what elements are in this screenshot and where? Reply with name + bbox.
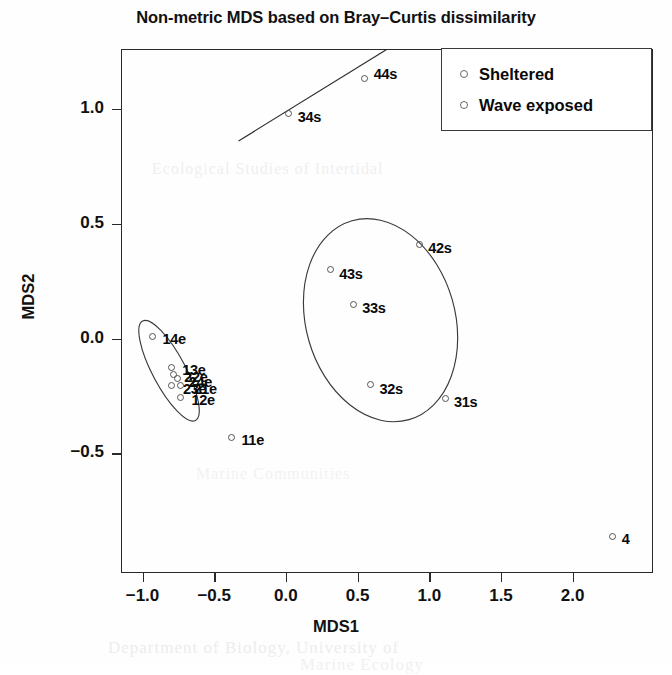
data-point-label: 34s	[298, 109, 321, 125]
page-title: Non-metric MDS based on Bray–Curtis diss…	[0, 8, 672, 27]
y-tick-mark	[112, 453, 121, 454]
data-point-label: 11e	[241, 432, 264, 448]
data-point-label: 14e	[163, 331, 186, 347]
x-tick-mark	[286, 573, 287, 582]
bleedthrough-text: Marine Ecology	[300, 655, 424, 675]
open-circle-icon	[460, 101, 468, 109]
x-tick-mark	[143, 573, 144, 582]
data-point-marker	[367, 381, 374, 388]
y-tick-mark	[112, 224, 121, 225]
data-point-label: 32s	[380, 381, 403, 397]
data-point-marker	[442, 395, 449, 402]
y-tick-label: −0.5	[38, 442, 104, 462]
open-circle-icon	[460, 70, 468, 78]
data-point-marker	[177, 394, 184, 401]
sheltered-pair-line	[239, 49, 395, 141]
data-point-label: 4	[622, 531, 630, 547]
data-point-label: 44s	[374, 66, 397, 82]
data-point-marker	[149, 333, 156, 340]
legend-item-sheltered: Sheltered	[460, 63, 554, 85]
data-point-marker	[350, 301, 357, 308]
legend-item-wave-exposed: Wave exposed	[460, 94, 593, 116]
y-tick-label: 1.0	[38, 98, 104, 118]
x-tick-label: −1.0	[113, 586, 173, 606]
data-point-marker	[228, 434, 235, 441]
data-point-marker	[327, 266, 334, 273]
y-axis-title: MDS2	[19, 242, 38, 352]
x-tick-label: 0.0	[256, 586, 316, 606]
bleedthrough-text: Department of Biology, University of	[108, 638, 399, 658]
data-point-label: 42s	[428, 240, 451, 256]
x-tick-mark	[501, 573, 502, 582]
x-tick-label: 2.0	[543, 586, 603, 606]
x-tick-label: 1.0	[399, 586, 459, 606]
legend-label-sheltered: Sheltered	[479, 65, 554, 84]
legend-label-wave-exposed: Wave exposed	[479, 96, 593, 115]
y-tick-mark	[112, 109, 121, 110]
y-tick-mark	[112, 339, 121, 340]
x-tick-mark	[429, 573, 430, 582]
x-tick-label: 1.5	[471, 586, 531, 606]
data-point-marker	[416, 241, 423, 248]
x-tick-mark	[214, 573, 215, 582]
sheltered-ellipse	[280, 200, 480, 440]
y-tick-label: 0.5	[38, 213, 104, 233]
x-tick-mark	[573, 573, 574, 582]
y-tick-label: 0.0	[38, 328, 104, 348]
data-point-label: 33s	[362, 300, 385, 316]
data-point-label: 43s	[339, 266, 362, 282]
x-tick-mark	[358, 573, 359, 582]
data-point-label: 12e	[192, 392, 215, 408]
data-point-marker	[168, 364, 175, 371]
x-tick-label: −0.5	[184, 586, 244, 606]
legend-box: Sheltered Wave exposed	[441, 48, 652, 131]
x-axis-title: MDS1	[0, 617, 672, 636]
data-point-label: 31s	[454, 394, 477, 410]
x-tick-label: 0.5	[328, 586, 388, 606]
